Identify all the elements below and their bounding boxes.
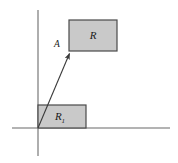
label-r1-subscript: 1 bbox=[62, 117, 66, 125]
vector-diagram: R R1 A bbox=[0, 0, 178, 163]
label-rectangle-r: R bbox=[89, 29, 97, 41]
figure-container: R R1 A bbox=[0, 0, 178, 163]
label-point-a: A bbox=[53, 39, 60, 49]
